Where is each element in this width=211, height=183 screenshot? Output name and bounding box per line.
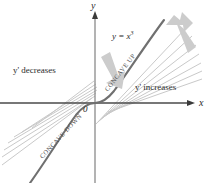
- y-axis-label: y: [91, 0, 95, 11]
- right-slope-annotation: y' increases: [135, 82, 176, 92]
- cubic-curve: [30, 20, 164, 183]
- left-slope-annotation: y' decreases: [13, 65, 56, 75]
- up-left-gray-arrow: [166, 12, 196, 53]
- x-axis-label: x: [199, 97, 203, 108]
- origin-label: 0: [83, 104, 88, 114]
- concavity-figure: y x 0 y = x3 y' decreases y' increases C…: [0, 0, 211, 183]
- figure-canvas: [0, 0, 211, 183]
- curve-equation-label: y = x3: [112, 30, 134, 41]
- equation-exponent: 3: [131, 30, 134, 36]
- equation-base: y = x: [112, 31, 131, 41]
